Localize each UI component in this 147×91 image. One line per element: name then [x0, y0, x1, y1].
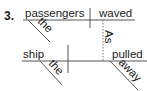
- sub-modifier-the: the: [47, 57, 67, 77]
- main-subject: passengers: [25, 7, 85, 19]
- item-number: 3.: [4, 9, 14, 23]
- sub-subject: ship: [23, 48, 44, 60]
- sentence-diagram: 3. passengers waved the As ship pulled t…: [0, 0, 147, 91]
- conjunction-as: As: [103, 30, 115, 44]
- sub-modifier-away: away: [117, 56, 144, 84]
- main-verb: waved: [98, 7, 132, 19]
